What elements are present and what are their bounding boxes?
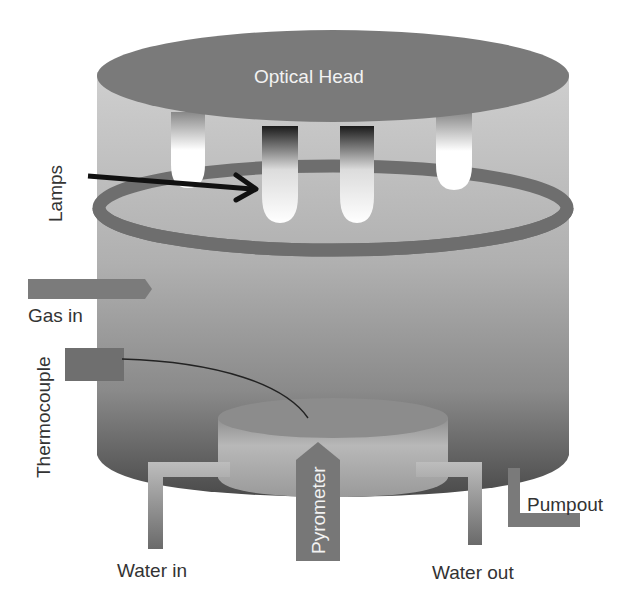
- water-in-label: Water in: [117, 560, 187, 582]
- lamp-4: [436, 112, 472, 190]
- lamp-3: [340, 126, 374, 223]
- thermocouple-label: Thermocouple: [33, 357, 55, 478]
- lamp-2: [262, 126, 298, 223]
- gas-in-label: Gas in: [28, 305, 83, 327]
- lamps-label: Lamps: [45, 165, 67, 222]
- water-out-label: Water out: [432, 562, 514, 584]
- pyrometer-label: Pyrometer: [308, 466, 330, 554]
- optical-head-label: Optical Head: [254, 66, 364, 88]
- water-in-pipe: [148, 462, 230, 549]
- thermocouple-box: [65, 348, 124, 381]
- water-out-pipe: [416, 462, 482, 545]
- gas-inlet-arrow: [28, 279, 152, 299]
- lamp-1: [171, 112, 205, 188]
- pumpout-label: Pumpout: [527, 494, 603, 516]
